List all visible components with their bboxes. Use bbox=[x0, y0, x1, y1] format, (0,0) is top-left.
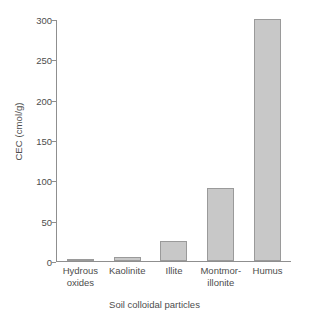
bar-slot bbox=[104, 20, 151, 261]
x-axis-tick-label: Humus bbox=[244, 265, 291, 288]
x-axis-tick-label-line2: oxides bbox=[57, 277, 104, 289]
x-axis-tick-label: Hydrousoxides bbox=[57, 265, 104, 288]
y-axis-tick-mark bbox=[51, 181, 56, 182]
x-axis-tick-label-line1: Montmor- bbox=[200, 265, 241, 276]
y-axis-tick-label: 150 bbox=[36, 136, 52, 147]
bar[interactable] bbox=[254, 19, 281, 261]
x-axis-line bbox=[56, 261, 291, 262]
y-axis-title-text: CEC (cmol/g) bbox=[13, 102, 24, 160]
y-axis-tick-labels: 050100150200250300 bbox=[26, 0, 52, 262]
bar-slot bbox=[57, 20, 104, 261]
bar-slot bbox=[244, 20, 291, 261]
y-axis-tick-mark bbox=[51, 222, 56, 223]
bar-slot bbox=[197, 20, 244, 261]
x-axis-tick-label-line2: illonite bbox=[197, 277, 244, 289]
y-axis-tick-mark bbox=[51, 20, 56, 21]
y-axis-tick-mark bbox=[51, 262, 56, 263]
y-axis-tick-label: 100 bbox=[36, 176, 52, 187]
y-axis-title: CEC (cmol/g) bbox=[10, 0, 26, 262]
y-axis-tick-label: 300 bbox=[36, 15, 52, 26]
y-axis-tick-label: 250 bbox=[36, 55, 52, 66]
bar[interactable] bbox=[160, 241, 187, 261]
bar-slot bbox=[151, 20, 198, 261]
x-axis-tick-label-line1: Illite bbox=[166, 265, 183, 276]
x-axis-title: Soil colloidal particles bbox=[0, 299, 309, 310]
x-axis-tick-label: Illite bbox=[151, 265, 198, 288]
bar[interactable] bbox=[114, 257, 141, 261]
x-axis-tick-label: Montmor-illonite bbox=[197, 265, 244, 288]
x-axis-tick-labels: HydrousoxidesKaoliniteIlliteMontmor-illo… bbox=[57, 265, 291, 288]
y-axis-tick-mark bbox=[51, 60, 56, 61]
bar-chart: CEC (cmol/g) 050100150200250300 Hydrouso… bbox=[0, 0, 309, 323]
bar[interactable] bbox=[207, 188, 234, 261]
plot-area bbox=[56, 20, 291, 262]
bars-layer bbox=[57, 20, 291, 261]
y-axis-tick-label: 200 bbox=[36, 95, 52, 106]
y-axis-tick-mark bbox=[51, 141, 56, 142]
x-axis-tick-label-line1: Humus bbox=[253, 265, 283, 276]
x-axis-tick-label-line1: Hydrous bbox=[63, 265, 98, 276]
bar[interactable] bbox=[67, 259, 94, 261]
y-axis-tick-mark bbox=[51, 101, 56, 102]
x-axis-tick-label-line1: Kaolinite bbox=[109, 265, 145, 276]
x-axis-tick-label: Kaolinite bbox=[104, 265, 151, 288]
